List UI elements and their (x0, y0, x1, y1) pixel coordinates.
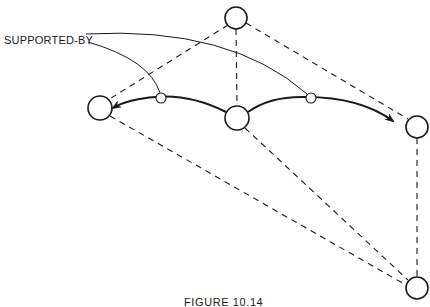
supported-by-label: SUPPORTED-BY (4, 34, 93, 46)
dashed-edge-top-right (246, 23, 408, 119)
node-middle (225, 106, 249, 130)
junction-circle-left (156, 93, 166, 103)
dashed-edge-middle-bottomright (245, 128, 408, 280)
node-top (225, 7, 247, 29)
arrow-middle-to-left (113, 97, 226, 112)
semantic-network-diagram (0, 0, 430, 307)
figure-caption: FIGURE 10.14 (184, 296, 263, 307)
arrow-middle-to-right (248, 97, 393, 121)
dashed-edge-top-middle (236, 29, 237, 106)
node-bottom-right (406, 277, 428, 299)
junction-circle-right (306, 93, 316, 103)
dashed-edge-left-bottomright (110, 116, 406, 285)
node-right (406, 116, 428, 138)
node-left (88, 96, 112, 120)
label-connector-to-left-junction (88, 42, 160, 93)
label-connector-to-right-junction (86, 33, 307, 94)
